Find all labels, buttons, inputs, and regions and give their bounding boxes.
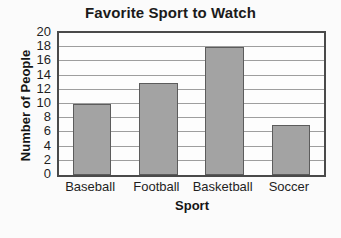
y-tick-label: 10 <box>37 96 51 109</box>
x-tick-label: Baseball <box>65 179 115 194</box>
x-axis-title: Sport <box>57 198 327 213</box>
y-tick-label: 2 <box>44 152 51 165</box>
y-tick-label: 16 <box>37 53 51 66</box>
x-tick-label: Football <box>133 179 179 194</box>
bar <box>205 47 243 175</box>
y-tick-label: 0 <box>44 167 51 180</box>
bar <box>272 125 310 175</box>
y-tick-label: 8 <box>44 110 51 123</box>
chart-title: Favorite Sport to Watch <box>0 4 341 21</box>
bar <box>73 104 111 175</box>
y-tick-label: 14 <box>37 67 51 80</box>
y-tick-label: 18 <box>37 39 51 52</box>
y-tick-label: 6 <box>44 124 51 137</box>
y-tick-label: 12 <box>37 81 51 94</box>
plot-area <box>57 31 326 177</box>
x-axis-tick-labels: BaseballFootballBasketballSoccer <box>57 179 326 197</box>
bar-chart-figure: Favorite Sport to Watch Number of People… <box>0 0 341 238</box>
x-tick-label: Soccer <box>269 179 309 194</box>
bars-layer <box>59 33 324 175</box>
bar <box>139 83 177 175</box>
y-tick-label: 20 <box>37 25 51 38</box>
y-tick-label: 4 <box>44 138 51 151</box>
y-axis-tick-labels: 02468101214161820 <box>0 31 54 177</box>
x-tick-label: Basketball <box>193 179 253 194</box>
